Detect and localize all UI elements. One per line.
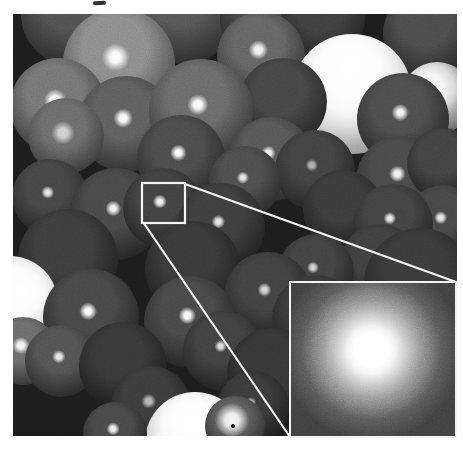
- zoom-inset-panel: [289, 281, 457, 438]
- speckle-highlight-blob: [291, 283, 455, 436]
- cropped-text-artifact: [93, 1, 106, 6]
- figure-canvas: [0, 0, 463, 454]
- dark-speck-artifact: [231, 424, 235, 428]
